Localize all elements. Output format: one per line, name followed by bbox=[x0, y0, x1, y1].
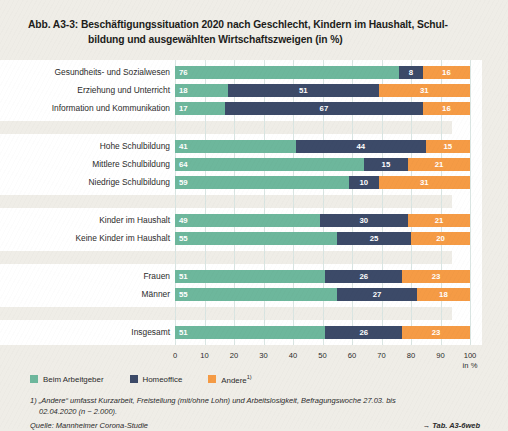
bar-track: 512623 bbox=[175, 270, 470, 283]
bar-row: Kinder im Haushalt493021 bbox=[30, 214, 482, 227]
bar-value-label: 31 bbox=[379, 84, 470, 97]
bar-row: Niedrige Schulbildung591031 bbox=[30, 176, 482, 189]
bar-segment: 59 bbox=[175, 176, 349, 189]
bar-value-label: 30 bbox=[320, 214, 409, 227]
bar-row-label: Information und Kommunikation bbox=[5, 102, 175, 115]
legend-swatch-icon bbox=[208, 375, 216, 383]
legend-label: Beim Arbeitgeber bbox=[43, 375, 104, 384]
bar-value-label: 59 bbox=[179, 176, 188, 189]
bar-segment: 51 bbox=[175, 326, 325, 339]
bar-value-label: 18 bbox=[179, 84, 188, 97]
bar-row-label: Männer bbox=[5, 288, 175, 301]
bar-segment: 15 bbox=[364, 158, 408, 171]
bar-segment: 16 bbox=[423, 66, 470, 79]
x-axis-tick-label: 70 bbox=[377, 351, 385, 360]
bar-segment: 55 bbox=[175, 232, 337, 245]
bar-track: 591031 bbox=[175, 176, 470, 189]
bar-value-label: 44 bbox=[296, 140, 426, 153]
legend-item[interactable]: Andere1) bbox=[208, 374, 251, 385]
x-axis-tick-labels: 0102030405060708090100 bbox=[175, 351, 470, 363]
bar-segment: 21 bbox=[408, 158, 470, 171]
bar-segment: 51 bbox=[175, 270, 325, 283]
bar-track: 185131 bbox=[175, 84, 470, 97]
bar-value-label: 49 bbox=[179, 214, 188, 227]
bar-row-label: Niedrige Schulbildung bbox=[5, 176, 175, 189]
x-axis-unit-label: in % bbox=[463, 361, 478, 370]
source-text: Quelle: Mannheimer Corona-Studie bbox=[30, 420, 148, 431]
legend-swatch-icon bbox=[30, 375, 38, 383]
bar-segment: 26 bbox=[325, 270, 402, 283]
bar-value-label: 21 bbox=[408, 214, 470, 227]
bar-row: Keine Kinder im Haushalt552520 bbox=[30, 232, 482, 245]
bar-segment: 23 bbox=[402, 326, 470, 339]
legend-label: Andere1) bbox=[221, 374, 251, 385]
bar-value-label: 18 bbox=[417, 288, 470, 301]
bar-track: 176716 bbox=[175, 102, 470, 115]
bar-segment: 8 bbox=[399, 66, 423, 79]
bar-segment: 27 bbox=[337, 288, 417, 301]
footnote-1: 1) „Andere“ umfasst Kurzarbeit, Freistel… bbox=[30, 395, 480, 418]
source-row: Quelle: Mannheimer Corona-Studie → Tab. … bbox=[30, 420, 480, 431]
bar-segment: 10 bbox=[349, 176, 379, 189]
x-axis-tick-label: 20 bbox=[230, 351, 238, 360]
table-reference-link[interactable]: → Tab. A3-6web bbox=[423, 420, 480, 431]
bar-segment: 17 bbox=[175, 102, 225, 115]
bar-value-label: 15 bbox=[364, 158, 408, 171]
bar-value-label: 25 bbox=[337, 232, 411, 245]
bar-value-label: 20 bbox=[411, 232, 470, 245]
bar-value-label: 23 bbox=[402, 270, 470, 283]
bar-value-label: 15 bbox=[426, 140, 470, 153]
footnote-1-continued: 02.04.2020 (n ~ 2.000). bbox=[30, 406, 480, 417]
bar-value-label: 26 bbox=[325, 270, 402, 283]
bar-value-label: 64 bbox=[179, 158, 188, 171]
bar-value-label: 27 bbox=[337, 288, 417, 301]
bar-row-label: Keine Kinder im Haushalt bbox=[5, 232, 175, 245]
x-axis-tick-label: 80 bbox=[407, 351, 415, 360]
bar-segment: 64 bbox=[175, 158, 364, 171]
bar-segment: 51 bbox=[228, 84, 378, 97]
bar-value-label: 51 bbox=[179, 270, 188, 283]
bar-value-label: 8 bbox=[399, 66, 423, 79]
bar-value-label: 51 bbox=[179, 326, 188, 339]
legend-label: Homeoffice bbox=[143, 375, 183, 384]
bar-value-label: 23 bbox=[402, 326, 470, 339]
bar-segment: 18 bbox=[175, 84, 228, 97]
bar-segment: 21 bbox=[408, 214, 470, 227]
bar-track: 512623 bbox=[175, 326, 470, 339]
bar-value-label: 76 bbox=[179, 66, 188, 79]
bar-row-label: Insgesamt bbox=[5, 326, 175, 339]
bar-segment: 55 bbox=[175, 288, 337, 301]
bar-value-label: 31 bbox=[379, 176, 470, 189]
x-axis-tick-label: 60 bbox=[348, 351, 356, 360]
bar-track: 76816 bbox=[175, 66, 470, 79]
bar-segment: 67 bbox=[225, 102, 423, 115]
x-axis-tick-label: 0 bbox=[173, 351, 177, 360]
bar-segment: 31 bbox=[379, 176, 470, 189]
footnote-1-main: 1) „Andere“ umfasst Kurzarbeit, Freistel… bbox=[30, 396, 396, 405]
bar-segment: 18 bbox=[417, 288, 470, 301]
bar-value-label: 16 bbox=[423, 66, 470, 79]
bar-row: Männer552718 bbox=[30, 288, 482, 301]
bar-segment: 26 bbox=[325, 326, 402, 339]
bar-value-label: 67 bbox=[225, 102, 423, 115]
bar-segment: 15 bbox=[426, 140, 470, 153]
bar-segment: 20 bbox=[411, 232, 470, 245]
x-axis-tick-label: 50 bbox=[318, 351, 326, 360]
bar-track: 414415 bbox=[175, 140, 470, 153]
bar-row-label: Gesundheits- und Sozialwesen bbox=[5, 66, 175, 79]
bar-value-label: 17 bbox=[179, 102, 188, 115]
bar-segment: 23 bbox=[402, 270, 470, 283]
bar-value-label: 55 bbox=[179, 232, 188, 245]
legend-swatch-icon bbox=[130, 375, 138, 383]
bar-segment: 76 bbox=[175, 66, 399, 79]
legend-item[interactable]: Beim Arbeitgeber bbox=[30, 375, 104, 384]
bar-row: Mittlere Schulbildung641521 bbox=[30, 158, 482, 171]
chart-footnotes: 1) „Andere“ umfasst Kurzarbeit, Freistel… bbox=[30, 395, 480, 431]
bar-row: Gesundheits- und Sozialwesen76816 bbox=[30, 66, 482, 79]
x-axis-tick-label: 40 bbox=[289, 351, 297, 360]
bar-row: Insgesamt512623 bbox=[30, 326, 482, 339]
bar-value-label: 41 bbox=[179, 140, 188, 153]
legend-item[interactable]: Homeoffice bbox=[130, 375, 183, 384]
bar-segment: 30 bbox=[320, 214, 409, 227]
bar-value-label: 21 bbox=[408, 158, 470, 171]
